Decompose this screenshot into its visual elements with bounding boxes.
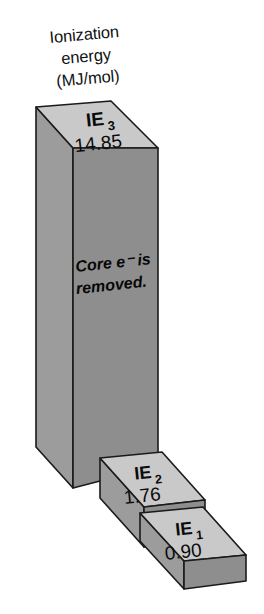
- bar-ie3: IE 3 14.85 Core e⁻ is removed.: [36, 101, 158, 488]
- figure-canvas: Ionization energy (MJ/mol) IE 3 14.85 Co…: [0, 0, 264, 614]
- bar-ie1-value: 0.90: [164, 539, 203, 564]
- bar-ie3-label-main: IE: [85, 108, 105, 131]
- ionization-energy-3d-bar-chart: Ionization energy (MJ/mol) IE 3 14.85 Co…: [0, 0, 264, 614]
- bar-ie3-front-face: [73, 148, 158, 488]
- bar-ie2-value: 1.76: [123, 483, 162, 508]
- bar-ie3-side-face: [36, 107, 73, 488]
- bar-ie1-label-main: IE: [174, 518, 193, 540]
- bar-ie2-label-main: IE: [133, 462, 152, 484]
